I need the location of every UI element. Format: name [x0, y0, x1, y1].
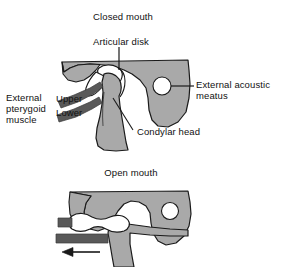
external-acoustic-meatus-shape — [153, 77, 171, 95]
closed-mouth-title: Closed mouth — [78, 11, 168, 22]
external-acoustic-meatus-shape-open — [162, 203, 179, 220]
condylar-head-label: Condylar head — [137, 126, 227, 137]
articular-disk-label: Articular disk — [76, 36, 166, 47]
lower-pterygoid-muscle-shape-open — [56, 234, 108, 243]
upper-pterygoid-muscle-shape-open — [58, 218, 72, 227]
tmj-anatomy-figure: Closed mouth Articular disk External aco… — [0, 0, 286, 267]
open-mouth-title: Open mouth — [88, 167, 174, 178]
external-pterygoid-muscle-label-line3: muscle — [6, 114, 58, 125]
lower-head-label: Lower — [56, 107, 96, 118]
translation-direction-arrow — [62, 248, 100, 257]
open-mouth-panel — [56, 191, 191, 267]
external-acoustic-meatus-label-line2: meatus — [196, 90, 284, 101]
upper-head-label: Upper — [56, 93, 96, 104]
external-pterygoid-muscle-label-line2: pterygoid — [6, 103, 58, 114]
external-pterygoid-muscle-label-line1: External — [6, 92, 58, 103]
external-acoustic-meatus-label-line1: External acoustic — [196, 79, 284, 90]
